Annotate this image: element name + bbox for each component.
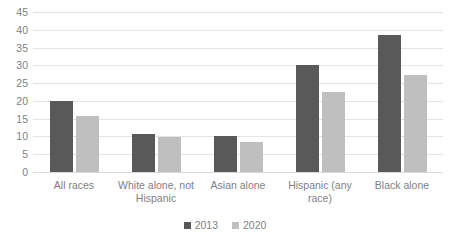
bar-group-bars	[197, 12, 279, 172]
bar[interactable]	[322, 92, 345, 172]
chart-legend: 20132020	[0, 220, 450, 231]
bar[interactable]	[158, 137, 181, 172]
x-axis-category-label: Asian alone	[197, 176, 279, 205]
x-axis-line	[33, 172, 443, 173]
bar[interactable]	[296, 65, 319, 172]
bar-chart: 051015202530354045 All racesWhite alone,…	[0, 0, 450, 246]
bar[interactable]	[378, 35, 401, 172]
legend-item[interactable]: 2020	[232, 220, 266, 231]
x-axis-category-label: Black alone	[361, 176, 443, 205]
legend-swatch-icon	[232, 222, 239, 229]
y-axis-tick-label: 45	[16, 7, 28, 18]
x-axis-category-label: All races	[33, 176, 115, 205]
bar[interactable]	[76, 116, 99, 172]
legend-swatch-icon	[184, 222, 191, 229]
y-axis-tick-label: 10	[16, 131, 28, 142]
bar[interactable]	[404, 75, 427, 172]
y-axis-tick-label: 25	[16, 78, 28, 89]
x-axis-category-label: Hispanic (any race)	[279, 176, 361, 205]
bar-group-bars	[115, 12, 197, 172]
bar-group-bars	[279, 12, 361, 172]
y-axis-tick-labels: 051015202530354045	[0, 12, 28, 172]
y-axis-tick-label: 30	[16, 60, 28, 71]
bar-group	[115, 12, 197, 172]
x-axis-category-labels: All racesWhite alone, not HispanicAsian …	[33, 176, 443, 205]
bar[interactable]	[132, 134, 155, 172]
bar-groups	[33, 12, 443, 172]
bar[interactable]	[240, 142, 263, 172]
legend-label: 2020	[243, 220, 266, 231]
y-axis-tick-label: 5	[22, 149, 28, 160]
bar-group	[361, 12, 443, 172]
plot-area	[33, 12, 443, 172]
bar-group	[279, 12, 361, 172]
x-axis-category-label: White alone, not Hispanic	[115, 176, 197, 205]
bar-group-bars	[33, 12, 115, 172]
y-axis-tick-label: 35	[16, 42, 28, 53]
legend-label: 2013	[195, 220, 218, 231]
bar-group	[33, 12, 115, 172]
bar-group	[197, 12, 279, 172]
y-axis-tick-label: 0	[22, 167, 28, 178]
bar[interactable]	[214, 136, 237, 172]
bar-group-bars	[361, 12, 443, 172]
legend-item[interactable]: 2013	[184, 220, 218, 231]
y-axis-tick-label: 15	[16, 113, 28, 124]
bar[interactable]	[50, 101, 73, 172]
y-axis-tick-label: 40	[16, 25, 28, 36]
y-axis-tick-label: 20	[16, 96, 28, 107]
